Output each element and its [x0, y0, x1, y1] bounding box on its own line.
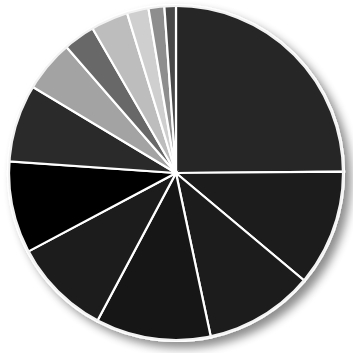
- pie-chart-svg: [0, 0, 353, 353]
- pie-chart-container: [0, 0, 353, 353]
- pie-slice-1[interactable]: [176, 5, 344, 173]
